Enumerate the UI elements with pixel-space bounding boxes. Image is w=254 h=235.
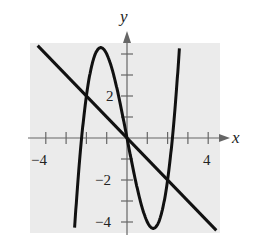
x-tick-label-4: 4 (203, 152, 211, 168)
chart: x y −4 4 2 −2 −4 (0, 0, 254, 235)
y-tick-label-2: 2 (106, 88, 114, 104)
y-tick-label-neg2: −2 (95, 172, 111, 188)
x-axis-label: x (231, 128, 240, 147)
x-tick-label-neg4: −4 (31, 152, 47, 168)
y-axis-label: y (118, 7, 128, 26)
y-tick-label-neg4: −4 (95, 214, 111, 230)
